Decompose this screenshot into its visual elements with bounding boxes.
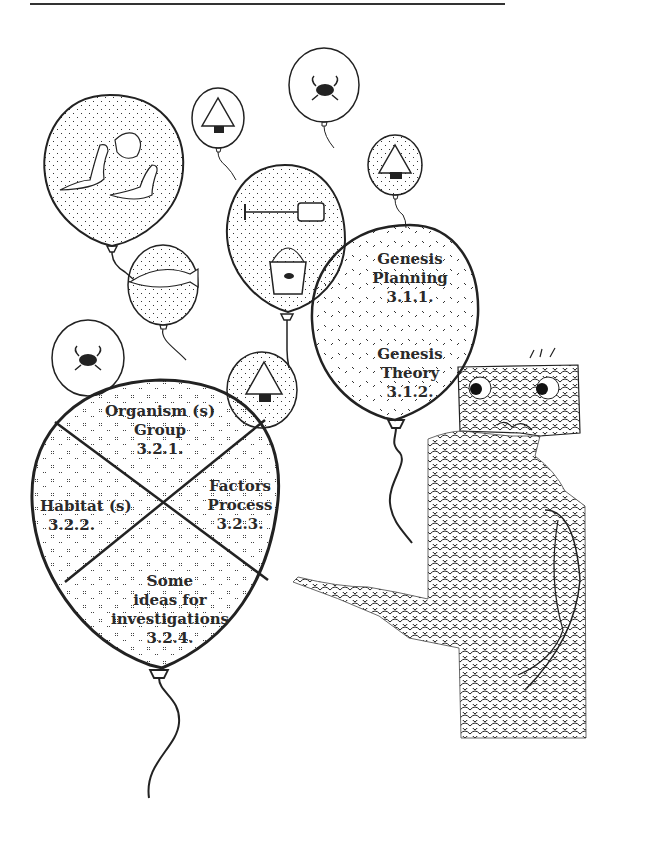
organism-label: Organism (s) Group 3.2.1. [90, 402, 230, 459]
alien-creature [293, 348, 586, 738]
factors-label: Factors Process 3.2.3. [200, 477, 280, 534]
genesis-theory-label: Genesis Theory 3.1.2. [355, 345, 465, 402]
balloon-triangle-2 [368, 135, 422, 228]
genesis-planning-label: Genesis Planning 3.1.1. [355, 250, 465, 307]
balloon-crab-1 [289, 48, 359, 148]
balloon-crab-2 [52, 320, 124, 396]
balloon-triangle-1 [192, 88, 244, 180]
balloon-fish [128, 245, 198, 360]
ideas-label: Some ideas for investigations 3.2.4. [95, 572, 245, 648]
habitat-label: Habitat (s) 3.2.2. [40, 497, 140, 535]
